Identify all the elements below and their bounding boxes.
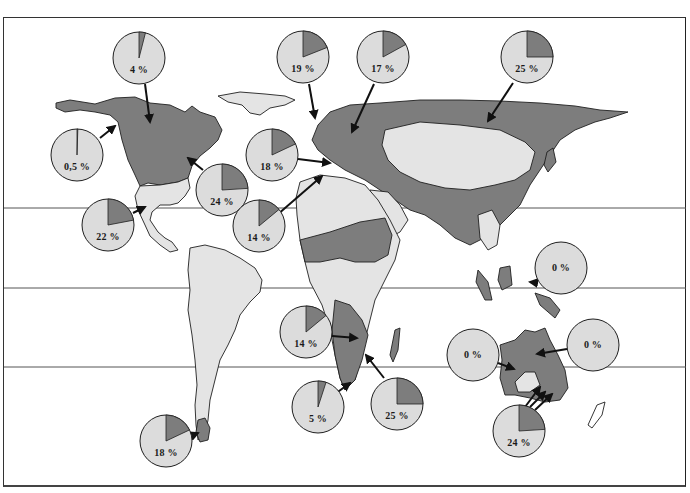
pie-east-africa [280,306,332,358]
pie-label-great-lakes: 24 % [192,196,252,207]
pie-south-africa [292,381,344,433]
pie-label-south-africa: 5 % [288,413,348,424]
pie-label-east-africa: 14 % [276,338,336,349]
pie-slice [527,31,553,57]
pie-slice [108,199,134,225]
pie-label-mexico: 22 % [78,231,138,242]
pie-uk [277,31,329,83]
pie-label-australia-west: 0 % [443,349,503,360]
pie-label-southeast-asia: 0 % [531,262,591,273]
pie-label-scandinavia: 17 % [353,63,413,74]
south-america-landmass [188,245,262,440]
usa-south-landmass [135,178,190,252]
australia-landmass [500,328,568,402]
pie-north-africa [233,200,285,252]
pie-madagascar-region [371,378,423,430]
borneo-landmass [498,266,512,290]
pie-alaska [51,129,103,181]
new-zealand-landmass [588,402,605,428]
pie-label-western-europe: 18 % [242,161,302,172]
pie-label-uk: 19 % [273,63,333,74]
pie-siberia [501,31,553,83]
pie-label-alaska: 0,5 % [47,161,107,172]
pie-label-madagascar-region: 25 % [367,410,427,421]
pie-label-north-africa: 14 % [229,232,289,243]
pie-label-australia-south: 24 % [489,437,549,448]
pie-slice [397,378,423,404]
pie-label-canada-north: 4 % [109,64,169,75]
new-guinea-landmass [535,293,560,318]
pie-label-australia-east: 0 % [563,339,623,350]
pie-label-siberia: 25 % [497,63,557,74]
sumatra-landmass [476,270,492,300]
pie-canada-north [113,32,165,84]
madagascar-landmass [390,328,400,362]
pie-slice [519,405,545,431]
pie-western-europe [246,129,298,181]
pie-label-patagonia: 18 % [136,447,196,458]
pie-patagonia [140,415,192,467]
pie-scandinavia [357,31,409,83]
greenland-landmass [218,92,295,115]
pie-australia-south [493,405,545,457]
pie-mexico [82,199,134,251]
